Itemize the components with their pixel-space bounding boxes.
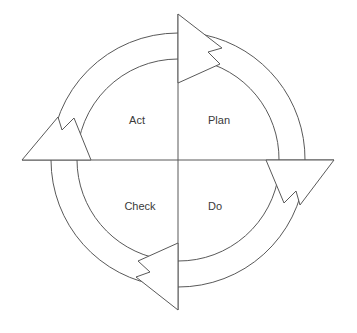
arrow-bottom-left-pointing-icon — [136, 243, 178, 310]
pdca-diagram: Act Plan Check Do — [0, 0, 357, 333]
outer-arc-top-right — [205, 35, 305, 160]
quadrant-label-do: Do — [208, 200, 222, 212]
inner-arc-top-right — [197, 60, 279, 160]
quadrant-labels: Act Plan Check Do — [124, 114, 230, 212]
arrow-left-up-pointing-icon — [22, 117, 91, 160]
pdca-cycle-svg: Act Plan Check Do — [0, 0, 357, 333]
quadrant-label-act: Act — [129, 114, 145, 126]
arrow-right-down-pointing-icon — [266, 160, 334, 205]
inner-arc-top-left — [77, 59, 178, 160]
quadrant-label-check: Check — [124, 200, 156, 212]
inner-arc-bottom-right — [178, 172, 279, 261]
arrow-top-right-pointing-icon — [178, 14, 222, 83]
quadrant-label-plan: Plan — [208, 114, 230, 126]
